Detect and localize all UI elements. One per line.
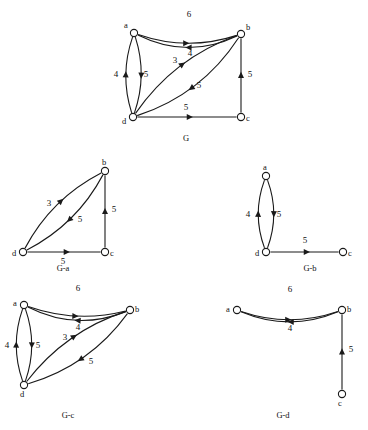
graph-G-a: 3555bcdG-a: [12, 157, 117, 273]
edge-weight-a-b: 4: [76, 322, 81, 332]
graph-caption-G: G: [183, 133, 189, 143]
edge-a-to-b: [241, 311, 338, 319]
edge-weight-a-b: 4: [288, 323, 293, 333]
edge-weight-b-a: 6: [288, 284, 293, 294]
arrowhead-d-to-a: [123, 71, 129, 77]
node-G-a[interactable]: [130, 29, 137, 36]
arrowhead-d-to-c: [304, 249, 310, 255]
node-label-G-c: c: [246, 113, 250, 123]
node-G-a-d[interactable]: [19, 248, 26, 255]
node-label-G-b-c: c: [348, 248, 352, 258]
arrowhead-d-to-b: [70, 335, 77, 341]
node-label-G-c-d: d: [20, 389, 25, 399]
graph-figure-canvas: 64354555abcdG3555bcdG-a455adcG-b643545ab…: [0, 0, 368, 430]
edge-a-to-b: [28, 306, 126, 316]
edge-weight-a-d: 4: [114, 69, 119, 79]
graph-G-b: 455adcG-b: [246, 162, 352, 273]
edge-weight-c-b: 5: [248, 69, 253, 79]
graph-caption-G-a: G-a: [57, 263, 70, 273]
edge-weight-a-d: 4: [5, 340, 10, 350]
node-label-G-c-b: b: [135, 304, 139, 314]
node-G-d-c[interactable]: [338, 390, 345, 397]
edge-weight-d-a: 5: [277, 209, 282, 219]
node-G-d[interactable]: [129, 113, 136, 120]
edge-weight-b-d: 5: [78, 214, 83, 224]
node-G-a-c[interactable]: [101, 248, 108, 255]
edge-weight-b-a: 6: [76, 283, 81, 293]
edge-weight-d-c: 5: [303, 235, 308, 245]
edge-weight-d-b: 3: [47, 198, 52, 208]
edge-weight-c-b: 5: [112, 204, 117, 214]
node-label-G-b: b: [246, 22, 250, 32]
node-label-G-c-a: a: [13, 298, 17, 308]
node-label-G-a-b: b: [102, 157, 106, 167]
graph-caption-G-b: G-b: [303, 263, 316, 273]
node-label-G-d-c: c: [338, 398, 342, 408]
arrowhead-d-to-c: [187, 114, 193, 120]
edge-weight-a-d: 4: [246, 209, 251, 219]
arrowhead-d-to-a: [13, 341, 19, 347]
arrowhead-c-to-b: [238, 72, 244, 78]
graph-G-d-edges: 645: [241, 284, 354, 390]
node-G-c-a[interactable]: [20, 301, 27, 308]
node-G-b-a[interactable]: [262, 172, 269, 179]
node-label-G-d: d: [122, 116, 127, 126]
figure-root: 64354555abcdG3555bcdG-a455adcG-b643545ab…: [0, 0, 368, 430]
node-label-G-b-d: d: [255, 248, 260, 258]
edge-b-to-d: [27, 175, 103, 250]
graph-G-b-edges: 455: [246, 180, 339, 255]
edge-weight-a-b: 4: [188, 48, 193, 58]
graph-caption-G-d: G-d: [276, 410, 290, 420]
node-G-c-d[interactable]: [20, 381, 27, 388]
node-G-d-a[interactable]: [233, 306, 240, 313]
arrowhead-d-to-b: [178, 62, 185, 68]
graph-G-c: 643545abdG-c: [5, 283, 139, 420]
edge-weight-d-c: 5: [184, 102, 189, 112]
node-G-b[interactable]: [237, 30, 244, 37]
arrowhead-b-to-d: [189, 84, 196, 90]
node-G-c-b[interactable]: [126, 306, 133, 313]
node-label-G-b-a: a: [263, 162, 267, 172]
node-G-b-c[interactable]: [339, 248, 346, 255]
arrowhead-c-to-b: [102, 208, 108, 214]
edge-weight-b-d: 5: [89, 356, 94, 366]
node-label-G-a-d: d: [12, 248, 17, 258]
node-G-b-d[interactable]: [262, 248, 269, 255]
arrowhead-d-to-c: [64, 249, 70, 255]
edge-weight-d-a: 5: [144, 69, 149, 79]
edge-weight-b-d: 5: [197, 80, 202, 90]
graph-G-edges: 64354555: [114, 9, 253, 120]
edge-weight-d-a: 5: [36, 340, 41, 350]
edge-d-to-b: [25, 173, 101, 248]
graph-G-d: 645abcG-d: [226, 284, 354, 420]
edge-weight-b-a: 6: [187, 9, 192, 19]
edge-weight-c-b: 5: [349, 344, 354, 354]
node-label-G-d-b: b: [347, 304, 351, 314]
graph-G: 64354555abcdG: [114, 9, 253, 143]
edge-weight-d-b: 3: [173, 55, 178, 65]
node-label-G-a: a: [124, 20, 128, 30]
node-G-d-b[interactable]: [338, 306, 345, 313]
arrowhead-b-to-d: [78, 355, 85, 361]
arrowhead-c-to-b: [339, 348, 345, 354]
arrowhead-a-to-d: [29, 342, 35, 348]
node-label-G-a-c: c: [110, 248, 114, 258]
node-G-a-b[interactable]: [101, 167, 108, 174]
arrowhead-a-to-b: [72, 313, 78, 319]
graph-G-a-nodes: bcd: [12, 157, 114, 258]
arrowhead-d-to-a: [255, 211, 261, 217]
graph-caption-G-c: G-c: [62, 410, 75, 420]
edge-weight-d-b: 3: [63, 332, 68, 342]
graph-G-c-edges: 643545: [5, 283, 128, 384]
node-label-G-d-a: a: [226, 304, 230, 314]
arrowhead-a-to-b: [183, 40, 189, 46]
node-G-c[interactable]: [237, 113, 244, 120]
